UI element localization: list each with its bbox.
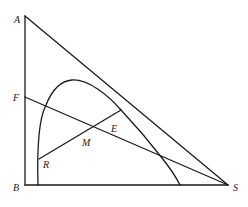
segment-RE bbox=[39, 110, 121, 159]
label-E: E bbox=[110, 123, 117, 134]
arch-curve bbox=[38, 80, 180, 185]
label-R: R bbox=[42, 159, 49, 170]
segment-AS bbox=[25, 16, 228, 185]
label-F: F bbox=[12, 92, 20, 103]
label-M: M bbox=[81, 137, 91, 148]
segment-FS bbox=[25, 97, 228, 185]
label-B: B bbox=[13, 182, 19, 193]
label-A: A bbox=[13, 14, 21, 25]
diagram-svg: A F B S M E R bbox=[0, 0, 248, 207]
label-S: S bbox=[233, 182, 238, 193]
geometry-diagram: A F B S M E R bbox=[0, 0, 248, 207]
